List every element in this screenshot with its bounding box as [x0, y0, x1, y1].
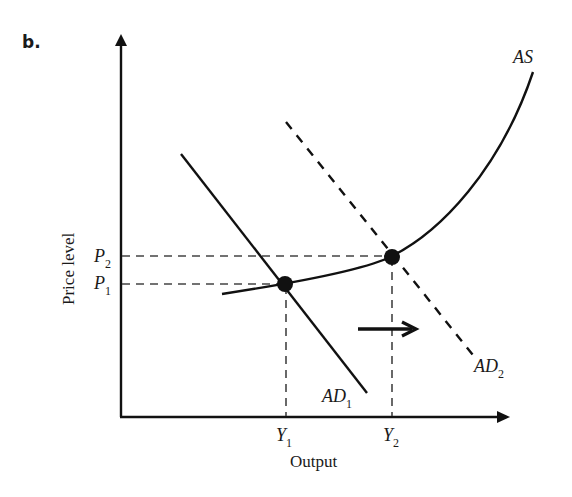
y-axis-arrowhead [115, 34, 127, 46]
y-axis-title: Price level [59, 233, 78, 305]
as-label: AS [512, 47, 533, 67]
ad2-label-base: AD [473, 356, 498, 376]
equilibrium-point-e2 [384, 249, 400, 265]
y1-label: Y1 [276, 425, 292, 450]
y2-label: Y2 [383, 425, 399, 450]
panel-label: b. [22, 32, 41, 52]
ad1-label: AD1 [321, 386, 352, 411]
axes [115, 34, 510, 423]
p1-label: P1 [93, 273, 111, 298]
ad2-label-sub: 2 [498, 367, 504, 381]
p1-label-base: P [93, 273, 105, 293]
shift-arrow-icon [358, 322, 416, 336]
p1-label-sub: 1 [105, 284, 111, 298]
p2-label: P2 [93, 246, 111, 271]
ad1-label-sub: 1 [346, 397, 352, 411]
as-curve [222, 72, 533, 294]
equilibrium-point-e1 [277, 276, 293, 292]
ad1-label-base: AD [321, 386, 346, 406]
p2-label-sub: 2 [105, 257, 111, 271]
x-axis-arrowhead [497, 411, 510, 423]
y1-label-sub: 1 [286, 436, 292, 450]
ad2-label: AD2 [473, 356, 504, 381]
p2-label-base: P [93, 246, 105, 266]
ad-as-diagram: b. Price level Output AS AD1 AD2 P2 [0, 0, 572, 497]
guide-lines [122, 256, 392, 416]
x-axis-title: Output [290, 452, 338, 471]
y2-label-sub: 2 [393, 436, 399, 450]
